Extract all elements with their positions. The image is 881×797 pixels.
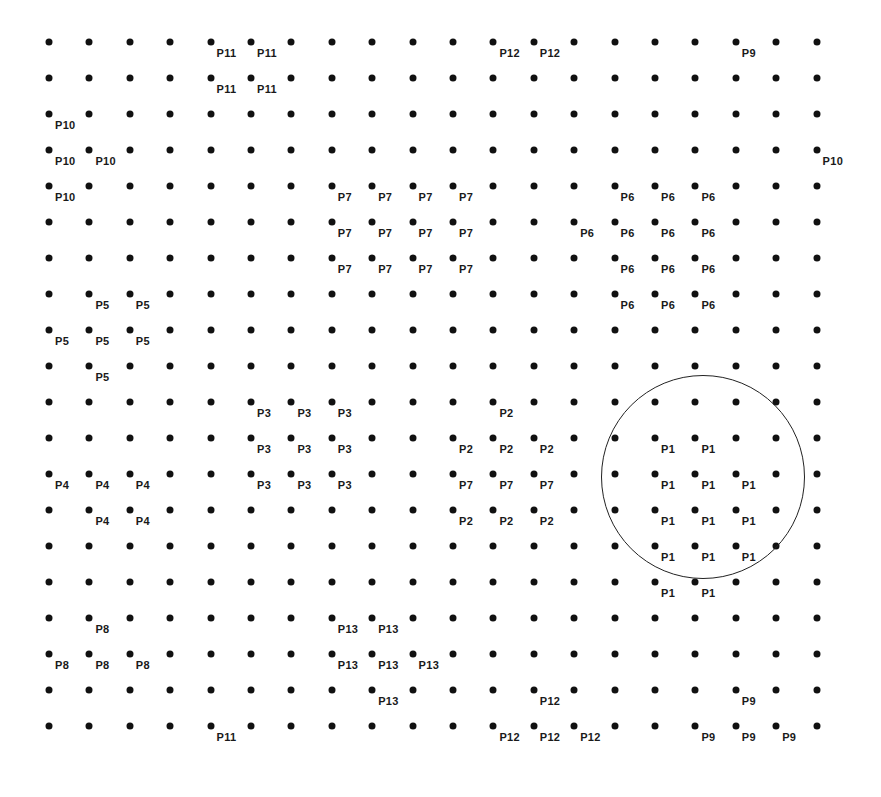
grid-dot <box>126 687 133 694</box>
group-label: P3 <box>338 408 352 419</box>
grid-dot <box>450 327 457 334</box>
grid-dot <box>328 75 335 82</box>
grid-dot <box>369 579 376 586</box>
group-label: P8 <box>136 660 150 671</box>
grid-dot <box>369 543 376 550</box>
grid-dot <box>652 723 659 730</box>
grid-dot <box>450 723 457 730</box>
group-label: P7 <box>459 264 473 275</box>
grid-dot <box>86 651 93 658</box>
grid-dot <box>571 723 578 730</box>
grid-dot <box>86 147 93 154</box>
grid-dot <box>46 327 53 334</box>
grid-dot <box>248 399 255 406</box>
group-label: P4 <box>95 480 109 491</box>
grid-dot <box>409 723 416 730</box>
grid-dot <box>571 579 578 586</box>
grid-dot <box>450 291 457 298</box>
grid-dot <box>571 435 578 442</box>
group-label: P5 <box>95 300 109 311</box>
grid-dot <box>450 219 457 226</box>
grid-dot <box>126 327 133 334</box>
grid-dot <box>813 615 820 622</box>
group-label: P9 <box>742 732 756 743</box>
grid-dot <box>490 399 497 406</box>
grid-dot <box>571 327 578 334</box>
grid-dot <box>328 723 335 730</box>
group-label: P3 <box>297 444 311 455</box>
grid-dot <box>409 147 416 154</box>
grid-dot <box>530 111 537 118</box>
group-label: P7 <box>499 480 513 491</box>
grid-dot <box>571 39 578 46</box>
grid-dot <box>652 39 659 46</box>
grid-dot <box>126 147 133 154</box>
grid-dot <box>692 183 699 190</box>
group-label: P3 <box>257 480 271 491</box>
grid-dot <box>248 435 255 442</box>
grid-dot <box>571 507 578 514</box>
grid-dot <box>611 291 618 298</box>
grid-dot <box>86 723 93 730</box>
grid-dot <box>86 363 93 370</box>
grid-dot <box>450 363 457 370</box>
grid-dot <box>46 39 53 46</box>
grid-dot <box>652 147 659 154</box>
group-label: P6 <box>701 264 715 275</box>
grid-dot <box>86 75 93 82</box>
grid-dot <box>248 723 255 730</box>
grid-dot <box>288 723 295 730</box>
grid-dot <box>571 543 578 550</box>
grid-dot <box>207 435 214 442</box>
group-label: P7 <box>378 264 392 275</box>
grid-dot <box>126 255 133 262</box>
grid-dot <box>773 327 780 334</box>
grid-dot <box>530 363 537 370</box>
grid-dot <box>46 219 53 226</box>
grid-dot <box>248 615 255 622</box>
grid-dot <box>328 435 335 442</box>
grid-dot <box>611 723 618 730</box>
grid-dot <box>490 651 497 658</box>
grid-dot <box>167 615 174 622</box>
group-label: P11 <box>257 48 277 59</box>
grid-dot <box>490 147 497 154</box>
grid-dot <box>611 543 618 550</box>
grid-dot <box>813 327 820 334</box>
grid-dot <box>126 507 133 514</box>
grid-dot <box>126 219 133 226</box>
grid-dot <box>732 255 739 262</box>
grid-dot <box>248 183 255 190</box>
grid-dot <box>450 183 457 190</box>
grid-dot <box>248 39 255 46</box>
grid-dot <box>369 507 376 514</box>
grid-dot <box>611 327 618 334</box>
grid-dot <box>732 147 739 154</box>
grid-dot <box>611 111 618 118</box>
grid-dot <box>409 507 416 514</box>
grid-dot <box>692 579 699 586</box>
grid-dot <box>288 291 295 298</box>
grid-dot <box>409 651 416 658</box>
grid-dot <box>369 75 376 82</box>
group-label: P4 <box>55 480 69 491</box>
grid-dot <box>369 111 376 118</box>
grid-dot <box>46 363 53 370</box>
grid-dot <box>288 363 295 370</box>
grid-dot <box>732 111 739 118</box>
group-label: P1 <box>661 588 675 599</box>
grid-dot <box>490 219 497 226</box>
grid-dot <box>450 507 457 514</box>
grid-dot <box>450 615 457 622</box>
grid-dot <box>692 291 699 298</box>
grid-dot <box>813 75 820 82</box>
grid-dot <box>732 219 739 226</box>
grid-dot <box>207 111 214 118</box>
grid-dot <box>450 651 457 658</box>
grid-dot <box>288 543 295 550</box>
grid-dot <box>86 327 93 334</box>
group-label: P4 <box>136 480 150 491</box>
group-label: P7 <box>419 228 433 239</box>
grid-dot <box>773 183 780 190</box>
grid-dot <box>126 435 133 442</box>
